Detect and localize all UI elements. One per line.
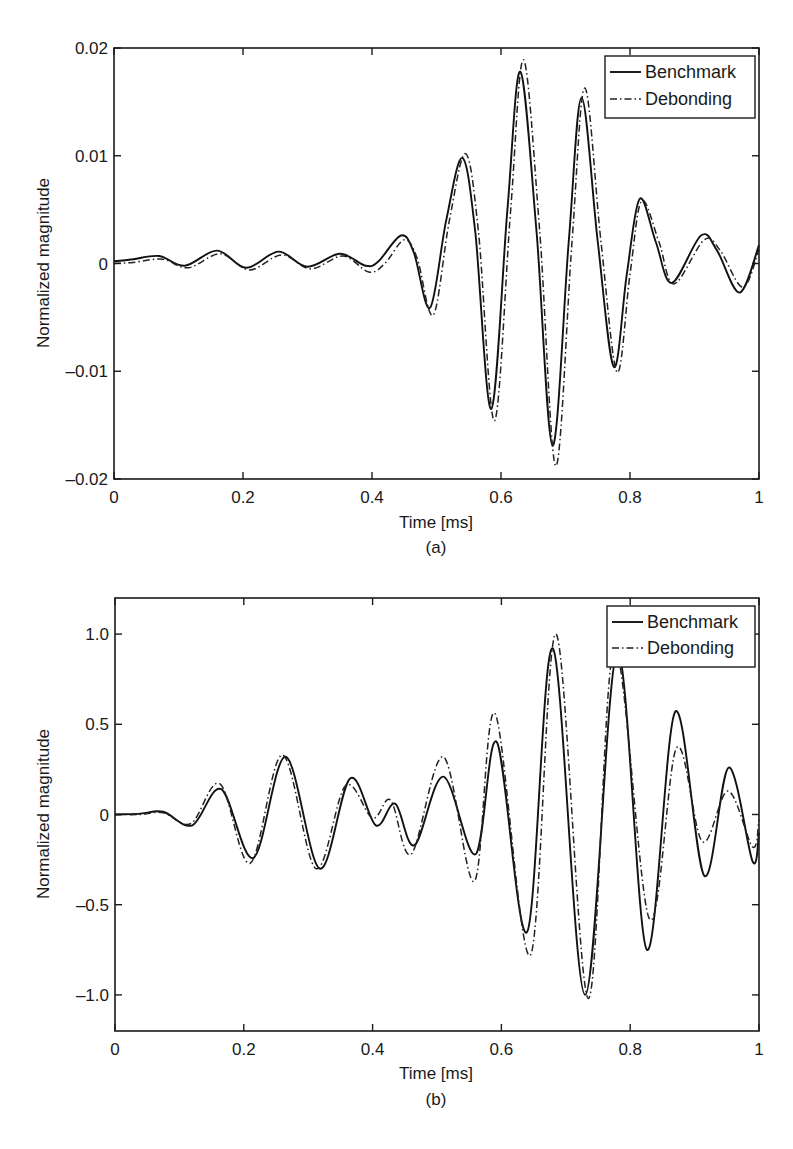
y-tick-label: 1.0	[85, 625, 109, 644]
x-tick-label: 0.8	[618, 488, 642, 507]
x-tick-label: 0.4	[361, 1040, 385, 1059]
legend-b: Benchmark Debonding	[607, 606, 755, 667]
x-tick-label: 0.6	[489, 488, 513, 507]
y-tick-label: 0.01	[75, 147, 108, 166]
x-tick-label: 0.2	[231, 488, 255, 507]
chart-b: 00.20.40.60.81 –1.0–0.500.51.0 Time [ms]…	[34, 598, 764, 1109]
x-tick-label: 0.2	[232, 1040, 256, 1059]
y-axis-label-b: Normalized magnitude	[34, 729, 53, 899]
y-tick-label: –0.01	[65, 362, 108, 381]
x-axis-label-a: Time [ms]	[399, 513, 473, 532]
y-tick-label: –1.0	[76, 986, 109, 1005]
x-tick-label: 1	[754, 1040, 763, 1059]
y-tick-label: –0.02	[65, 470, 108, 489]
legend-a: Benchmark Debonding	[605, 56, 755, 118]
x-tick-label: 0	[109, 488, 118, 507]
x-tick-label: 0.4	[360, 488, 384, 507]
caption-a: (a)	[426, 538, 447, 557]
y-tick-label: 0	[100, 806, 109, 825]
x-tick-labels-b: 00.20.40.60.81	[110, 1040, 763, 1059]
benchmark-line-a	[114, 72, 759, 446]
x-tick-label: 0.6	[490, 1040, 514, 1059]
x-tick-label: 0.8	[618, 1040, 642, 1059]
y-tick-label: –0.5	[76, 896, 109, 915]
curves-a	[114, 60, 759, 466]
x-tick-label: 1	[754, 488, 763, 507]
legend-label-benchmark-a: Benchmark	[645, 62, 737, 82]
y-tick-label: 0.02	[75, 39, 108, 58]
legend-label-debonding-b: Debonding	[647, 638, 734, 658]
curves-b	[115, 634, 759, 999]
x-tick-labels-a: 00.20.40.60.81	[109, 488, 763, 507]
y-tick-label: 0	[99, 255, 108, 274]
benchmark-line-b	[115, 648, 759, 995]
y-tick-labels-b: –1.0–0.500.51.0	[76, 625, 109, 1005]
x-tick-label: 0	[110, 1040, 119, 1059]
legend-label-debonding-a: Debonding	[645, 89, 732, 109]
y-axis-label-a: Normalized magnitude	[34, 178, 53, 348]
legend-label-benchmark-b: Benchmark	[647, 612, 739, 632]
figure: 00.20.40.60.81 –0.02–0.0100.010.02 Time …	[0, 0, 793, 1149]
caption-b: (b)	[426, 1090, 447, 1109]
chart-a: 00.20.40.60.81 –0.02–0.0100.010.02 Time …	[34, 39, 764, 557]
x-axis-label-b: Time [ms]	[399, 1064, 473, 1083]
y-tick-labels-a: –0.02–0.0100.010.02	[65, 39, 108, 489]
y-tick-label: 0.5	[85, 715, 109, 734]
